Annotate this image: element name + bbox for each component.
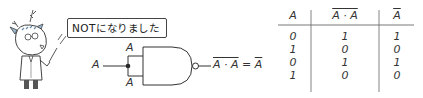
inverter-bubble bbox=[193, 63, 199, 69]
table-cell: 1 bbox=[382, 56, 412, 69]
branch-bottom-label: A bbox=[126, 76, 134, 89]
table-cell: 0 bbox=[330, 43, 360, 56]
table-cell: 0 bbox=[278, 56, 308, 69]
table-cell: 1 bbox=[330, 56, 360, 69]
branch-bottom-wire bbox=[128, 66, 143, 76]
nand-gate-body bbox=[143, 47, 192, 85]
input-label: A bbox=[92, 58, 100, 71]
output-expression-lhs: A · A bbox=[213, 58, 239, 71]
table-cell: 1 bbox=[278, 69, 308, 82]
table-cell: 0 bbox=[382, 43, 412, 56]
output-expression-rhs: A bbox=[255, 58, 263, 71]
output-expression-equals: = bbox=[242, 58, 251, 71]
table-header-not-a: A bbox=[382, 9, 412, 22]
table-cell: 1 bbox=[330, 30, 360, 43]
branch-top-label: A bbox=[126, 41, 134, 54]
table-header-a: A bbox=[278, 9, 308, 22]
table-cell: 0 bbox=[382, 69, 412, 82]
table-cell: 0 bbox=[330, 69, 360, 82]
table-cell: 0 bbox=[278, 30, 308, 43]
branch-top-wire bbox=[128, 56, 143, 66]
table-header-nand: A · A bbox=[326, 9, 364, 22]
table-cell: 1 bbox=[278, 43, 308, 56]
output-expression: A · A = A bbox=[213, 58, 262, 71]
table-cell: 1 bbox=[382, 30, 412, 43]
